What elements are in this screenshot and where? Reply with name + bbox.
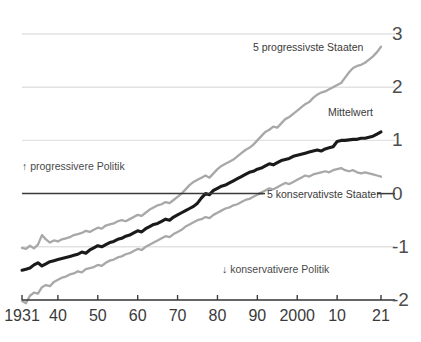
- y-tick-label--2: -2: [392, 289, 409, 310]
- x-tick-label-80: 80: [209, 307, 227, 324]
- conservative-states-label: 5 konservativste Staaten: [267, 188, 382, 200]
- x-tick-label-10: 10: [328, 307, 346, 324]
- y-tick-label-1: 1: [392, 129, 403, 150]
- y-tick-label-2: 2: [392, 76, 403, 97]
- x-tick-label-40: 40: [49, 307, 67, 324]
- mean-label: Mittelwert: [328, 106, 373, 118]
- x-tick-label-70: 70: [169, 307, 187, 324]
- x-tick-label-1931: 1931: [4, 307, 40, 324]
- progressive-states-label: 5 progressivste Staaten: [253, 41, 363, 53]
- x-tick-label-21: 21: [372, 307, 390, 324]
- x-tick-label-50: 50: [89, 307, 107, 324]
- x-tick-label-2000: 2000: [279, 307, 315, 324]
- chart-container: 3210-1-2 193140506070809020001021 5 prog…: [0, 0, 421, 342]
- y-tick-label-0: 0: [392, 183, 403, 204]
- line-chart: 3210-1-2 193140506070809020001021 5 prog…: [0, 0, 421, 342]
- y-tick-label--1: -1: [392, 236, 409, 257]
- x-tick-label-90: 90: [248, 307, 266, 324]
- y-tick-label-3: 3: [392, 23, 403, 44]
- conservative-direction-note: ↓ konservativere Politik: [222, 263, 330, 275]
- x-tick-label-60: 60: [129, 307, 147, 324]
- progressive-direction-note: ↑ progressivere Politik: [22, 160, 125, 172]
